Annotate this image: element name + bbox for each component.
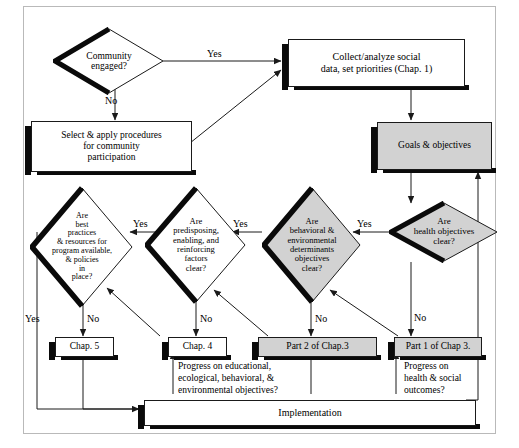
edge-label-behavioral-no: No xyxy=(315,313,327,324)
decision-predisposing-enabling[interactable]: Arepredisposing,enabling, andreinforcing… xyxy=(145,186,247,304)
edge-label-health-yes: Yes xyxy=(357,218,372,229)
edge-label-behavioral-yes: Yes xyxy=(233,218,248,229)
decision-behavioral-environmental[interactable]: Arebehavioral &environmentaldeterminants… xyxy=(262,186,362,304)
process-goals-objectives[interactable]: Goals & objectives xyxy=(377,122,490,168)
edge-label-community-yes: Yes xyxy=(207,48,222,59)
edge-label-best-yes: Yes xyxy=(25,313,40,324)
terminal-part1-chap3[interactable]: Part 1 of Chap 3. xyxy=(394,337,480,355)
process-select-apply-label: Select & apply proceduresfor communitypa… xyxy=(31,121,192,172)
flowchart-canvas: Communityengaged? Arehealth objectivescl… xyxy=(0,0,519,448)
terminal-chap4-label: Chap. 4 xyxy=(168,337,227,357)
process-select-apply[interactable]: Select & apply proceduresfor communitypa… xyxy=(31,121,190,170)
health-objectives-shape xyxy=(389,201,499,263)
edge-label-best-no: No xyxy=(87,313,99,324)
annotation-progress-educational: Progress on educational,ecological, beha… xyxy=(178,361,278,397)
edge-label-community-no: No xyxy=(105,95,117,106)
edge-select-to-collect xyxy=(190,70,281,143)
edge-label-health-no: No xyxy=(414,312,426,323)
terminal-part2-chap3-label: Part 2 of Chap.3 xyxy=(258,337,377,357)
terminal-part1-chap3-label: Part 1 of Chap 3. xyxy=(394,337,482,357)
terminal-chap5[interactable]: Chap. 5 xyxy=(55,337,112,355)
decision-best-practices[interactable]: Arebestpractices& resources forprogram a… xyxy=(30,186,134,308)
terminal-part2-chap3[interactable]: Part 2 of Chap.3 xyxy=(258,337,375,355)
community-engaged-shape xyxy=(53,27,165,95)
annotation-progress-health: Progress onhealth & socialoutcomes? xyxy=(404,361,462,397)
process-goals-objectives-label: Goals & objectives xyxy=(377,122,492,170)
decision-health-objectives[interactable]: Arehealth objectivesclear? xyxy=(389,201,499,263)
process-collect-analyze[interactable]: Collect/analyze socialdata, set prioriti… xyxy=(288,39,463,85)
best-practices-shape xyxy=(30,186,134,308)
process-implementation[interactable]: Implementation xyxy=(144,400,474,424)
terminal-chap5-label: Chap. 5 xyxy=(55,337,114,357)
behavioral-environmental-shape xyxy=(262,186,362,304)
process-implementation-label: Implementation xyxy=(144,400,476,426)
edge-label-predisposing-yes: Yes xyxy=(133,218,148,229)
process-collect-analyze-label: Collect/analyze socialdata, set prioriti… xyxy=(288,39,465,87)
predisposing-enabling-shape xyxy=(145,186,247,304)
terminal-chap4[interactable]: Chap. 4 xyxy=(168,337,225,355)
decision-community-engaged[interactable]: Communityengaged? xyxy=(53,27,165,95)
edge-label-predisposing-no: No xyxy=(200,313,212,324)
